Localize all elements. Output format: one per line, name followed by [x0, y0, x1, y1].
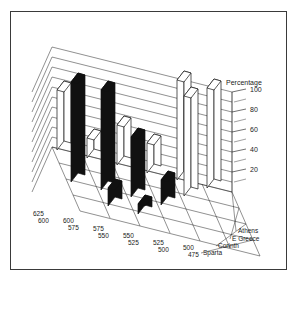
y-tick-label-60: 60: [250, 126, 258, 133]
y-tick-label-20: 20: [250, 166, 258, 173]
chart-3d-bar-plot: Percentage 100 80 60 40 20 625 600 600 5…: [0, 0, 300, 315]
x-label-2-top: 600: [63, 217, 74, 224]
series-label-athens: Athens: [238, 227, 259, 234]
x-label-6-bottom: 475: [188, 251, 199, 258]
bar-corinth-575-550: [131, 128, 145, 197]
x-label-4-bottom: 525: [128, 239, 139, 246]
x-label-5-bottom: 500: [158, 246, 169, 253]
bar-athens-500-475: [207, 79, 221, 188]
y-tick-label-80: 80: [250, 106, 258, 113]
bar-sparta-600-575: [108, 179, 122, 206]
x-label-3-top: 575: [93, 225, 104, 232]
bar-athens-550-525: [147, 134, 161, 173]
bar-athens-625-600: [57, 81, 71, 150]
x-label-2-bottom: 575: [68, 224, 79, 231]
bar-corinth-625-600: [71, 73, 85, 182]
bar-corinth-600-575: [101, 81, 115, 190]
x-label-3-bottom: 550: [98, 232, 109, 239]
bar-egreece-525-500: [184, 87, 198, 196]
bar-athens-600-575: [87, 129, 101, 158]
bar-corinth-550-525: [161, 171, 175, 205]
depth-axis-labels: Athens E Greece Corinth Sparta: [203, 227, 260, 257]
x-label-5-top: 525: [153, 239, 164, 246]
y-tick-label-100: 100: [250, 86, 262, 93]
bar-sparta-575-550: [138, 195, 152, 214]
left-wall-gridlines: [32, 47, 52, 192]
x-label-1-top: 625: [33, 210, 44, 217]
y-tick-label-40: 40: [250, 146, 258, 153]
chart-svg: Percentage 100 80 60 40 20 625 600 600 5…: [0, 0, 300, 315]
bar-athens-575-550: [117, 116, 131, 165]
series-label-egreece: E Greece: [232, 235, 260, 242]
x-label-6-top: 500: [183, 244, 194, 251]
x-label-4-top: 550: [123, 232, 134, 239]
x-label-1-bottom: 600: [38, 217, 49, 224]
x-axis-labels: 625 600 600 575 575 550 550 525 525 500 …: [33, 210, 199, 258]
